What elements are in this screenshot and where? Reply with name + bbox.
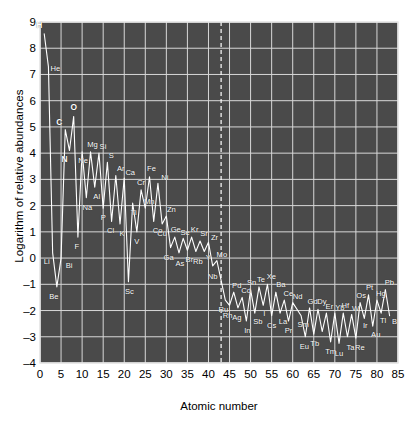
- element-label-Al: Al: [93, 192, 100, 201]
- element-label-Pr: Pr: [285, 326, 293, 335]
- element-label-Y: Y: [206, 252, 211, 261]
- element-label-Hf: Hf: [341, 301, 349, 310]
- element-label-Rb: Rb: [193, 256, 203, 265]
- element-label-P: P: [101, 213, 106, 222]
- element-label-W: W: [352, 304, 359, 313]
- element-label-Sc: Sc: [125, 286, 134, 295]
- element-label-Cd: Cd: [241, 286, 251, 295]
- element-label-Se: Se: [181, 228, 190, 237]
- element-label-Ge: Ge: [171, 225, 181, 234]
- element-label-I: I: [263, 309, 265, 318]
- element-label-F: F: [75, 242, 80, 251]
- element-label-Mg: Mg: [87, 139, 98, 148]
- element-label-Cr: Cr: [137, 177, 145, 186]
- element-label-Ti: Ti: [131, 207, 137, 216]
- element-label-Pd: Pd: [232, 281, 241, 290]
- element-label-Ne: Ne: [78, 155, 88, 164]
- element-label-La: La: [279, 317, 287, 326]
- element-label-Zr: Zr: [211, 233, 218, 242]
- element-label-Tb: Tb: [310, 339, 319, 348]
- element-label-Ba: Ba: [276, 280, 285, 289]
- element-label-Sm: Sm: [297, 319, 308, 328]
- element-label-Ni: Ni: [161, 173, 168, 182]
- element-label-Zn: Zn: [167, 205, 176, 214]
- element-label-Ga: Ga: [163, 252, 173, 261]
- element-label-Si: Si: [100, 142, 107, 151]
- y-axis-title: Logarithm of relative abundances: [13, 11, 25, 341]
- element-label-Ta: Ta: [346, 342, 354, 351]
- element-label-Ca: Ca: [125, 168, 135, 177]
- element-symbol-labels: HHeLiBeBiCNOFNeNaMgAlSiPSClArKCaScTiVCrM…: [0, 0, 420, 423]
- element-label-Ir: Ir: [363, 321, 368, 330]
- element-label-Rh: Rh: [223, 311, 233, 320]
- abundance-chart-figure: –4–3–2–10123456789 051015202530354045505…: [0, 0, 420, 423]
- element-label-Fe: Fe: [147, 163, 156, 172]
- element-label-S: S: [109, 151, 114, 160]
- element-label-Cl: Cl: [107, 226, 114, 235]
- element-label-Pb: Pb: [385, 277, 394, 286]
- element-label-Au: Au: [371, 330, 380, 339]
- element-label-Pt: Pt: [366, 282, 373, 291]
- element-label-H: H: [36, 20, 42, 30]
- element-label-N: N: [61, 154, 67, 164]
- element-label-Nb: Nb: [208, 271, 218, 280]
- element-label-V: V: [134, 236, 139, 245]
- element-label-Re: Re: [355, 343, 365, 352]
- element-label-O: O: [70, 102, 77, 112]
- element-label-Sb: Sb: [253, 317, 262, 326]
- element-label-Bi: Bi: [66, 261, 73, 270]
- element-label-K: K: [119, 228, 124, 237]
- element-label-Mo: Mo: [217, 249, 228, 258]
- element-label-As: As: [176, 258, 185, 267]
- element-label-Cu: Cu: [157, 228, 167, 237]
- element-label-In: In: [244, 326, 250, 335]
- element-label-Ar: Ar: [117, 164, 125, 173]
- element-label-Eu: Eu: [300, 341, 309, 350]
- element-label-Te: Te: [257, 274, 265, 283]
- element-label-Be: Be: [49, 291, 58, 300]
- element-label-Tl: Tl: [380, 316, 386, 325]
- element-label-B: B: [392, 316, 397, 325]
- element-label-Mn: Mn: [144, 197, 155, 206]
- element-label-Na: Na: [82, 202, 92, 211]
- element-label-Sr: Sr: [200, 229, 208, 238]
- element-label-Hg: Hg: [376, 289, 386, 298]
- element-label-Os: Os: [356, 290, 366, 299]
- x-axis-title: Atomic number: [40, 400, 398, 412]
- element-label-Gd: Gd: [307, 296, 317, 305]
- element-label-Er: Er: [326, 302, 334, 311]
- element-label-Ce: Ce: [283, 289, 293, 298]
- element-label-Li: Li: [44, 256, 50, 265]
- element-label-Ag: Ag: [232, 312, 241, 321]
- element-label-Nd: Nd: [293, 291, 303, 300]
- element-label-Sn: Sn: [247, 277, 256, 286]
- element-label-Xe: Xe: [267, 272, 276, 281]
- element-label-Cs: Cs: [267, 320, 276, 329]
- element-label-C: C: [56, 117, 62, 127]
- element-label-Lu: Lu: [335, 349, 343, 358]
- element-label-Kr: Kr: [191, 225, 199, 234]
- element-label-He: He: [51, 63, 61, 72]
